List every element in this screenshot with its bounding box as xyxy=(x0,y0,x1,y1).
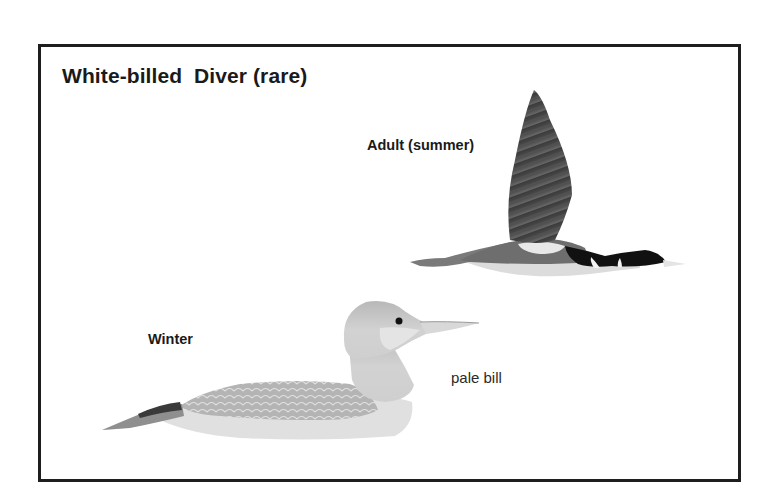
adult-bill xyxy=(663,260,686,267)
annotation-pale-bill: pale bill xyxy=(451,369,502,386)
bird-illustrations xyxy=(0,0,764,495)
winter-eye xyxy=(396,318,403,325)
adult-wing xyxy=(508,90,572,243)
winter-back xyxy=(180,381,378,420)
winter-bill xyxy=(420,322,479,334)
adult-summer-bird xyxy=(410,90,686,276)
winter-bird xyxy=(102,301,479,439)
label-winter: Winter xyxy=(148,331,193,347)
label-adult-summer: Adult (summer) xyxy=(367,137,474,153)
